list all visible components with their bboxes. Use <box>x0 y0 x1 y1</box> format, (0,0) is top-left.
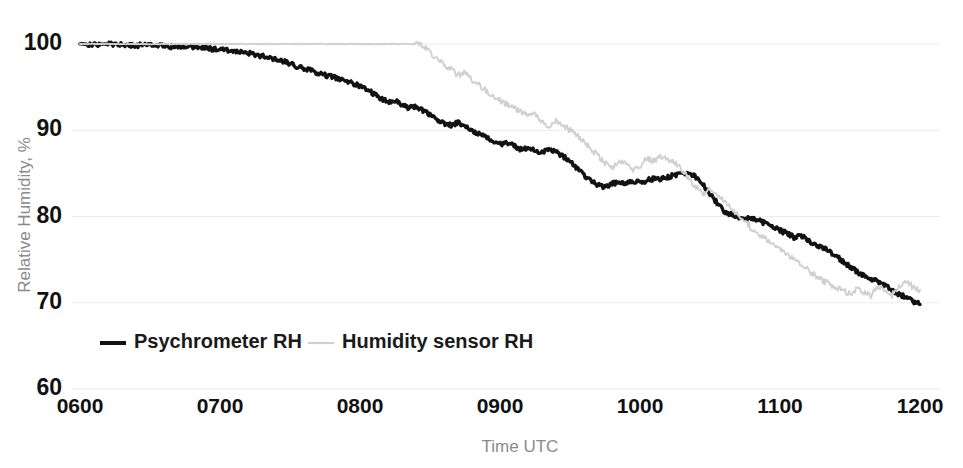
series-line-2 <box>80 42 920 298</box>
x-tick-label: 0700 <box>197 394 244 417</box>
x-tick-label: 1000 <box>617 394 664 417</box>
x-tick-label: 0600 <box>57 394 104 417</box>
legend: Psychrometer RHHumidity sensor RH <box>100 330 533 352</box>
x-tick-label: 0900 <box>477 394 524 417</box>
legend-label-1: Psychrometer RH <box>134 330 302 352</box>
data-series <box>80 42 920 304</box>
legend-label-2: Humidity sensor RH <box>342 330 533 352</box>
y-tick-label: 90 <box>36 115 62 141</box>
x-axis-title: Time UTC <box>482 437 559 456</box>
x-tick-label: 1100 <box>757 394 803 417</box>
x-axis-tick-labels: 0600070008000900100011001200 <box>57 394 944 417</box>
y-tick-label: 80 <box>36 202 62 228</box>
y-axis-title: Relative Humidity, % <box>15 137 34 293</box>
y-tick-label: 100 <box>24 29 62 55</box>
y-tick-label: 70 <box>36 288 62 314</box>
x-tick-label: 1200 <box>897 394 944 417</box>
relative-humidity-line-chart: 60708090100 0600070008000900100011001200… <box>0 0 963 468</box>
chart-container: 60708090100 0600070008000900100011001200… <box>0 0 963 468</box>
x-tick-label: 0800 <box>337 394 384 417</box>
series-line-1 <box>80 42 920 304</box>
